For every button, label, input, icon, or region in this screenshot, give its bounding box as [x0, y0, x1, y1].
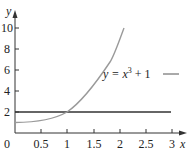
- origin-label: 0: [4, 137, 10, 150]
- y-ticks: [15, 28, 19, 112]
- x-tick-label-3: 3: [169, 137, 175, 150]
- x-axis-label: x: [179, 137, 186, 150]
- x-tick-label-0.5: 0.5: [34, 137, 49, 150]
- y-axis-label: y: [5, 4, 12, 18]
- x-tick-label-1: 1: [64, 137, 70, 150]
- x-tick-label-2: 2: [117, 137, 123, 150]
- y-axis-arrow-icon: [13, 10, 18, 18]
- y-tick-label-6: 6: [4, 63, 10, 77]
- y-tick-label-2: 2: [4, 105, 10, 119]
- x-tick-label-2.5: 2.5: [139, 137, 154, 150]
- x-tick-label-1.5: 1.5: [87, 137, 102, 150]
- y-tick-label-4: 4: [4, 84, 10, 98]
- x-ticks: [41, 129, 172, 133]
- y-tick-label-8: 8: [4, 42, 10, 56]
- x-axis-arrow-icon: [179, 131, 187, 136]
- chart-canvas: 2 4 6 8 10 0 0.5 1 1.5 2 2.5 3 y x y = x…: [0, 0, 192, 150]
- curve-annotation: y = x3 + 1: [102, 66, 151, 81]
- y-tick-label-10: 10: [1, 21, 13, 35]
